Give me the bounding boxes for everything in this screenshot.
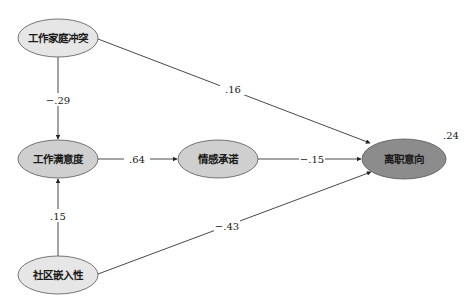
node-ce: 社区嵌入性 [18,256,98,294]
path-coefficient: .15 [50,211,66,222]
node-js: 工作满意度 [18,140,98,178]
node-label: 情感承诺 [198,153,239,165]
node-ti: 离职意向 [362,139,446,179]
path-coefficient: .16 [225,84,241,95]
r-squared-label: .24 [443,130,459,141]
path-coefficient: −.43 [215,221,239,232]
node-label: 工作满意度 [33,153,84,165]
path-diagram: 工作家庭冲突工作满意度情感承诺离职意向社区嵌入性 −.29.15.64−.15.… [0,0,464,308]
node-wfc: 工作家庭冲突 [18,19,98,57]
path-coefficient: .64 [129,154,145,165]
path-coefficient: −.29 [46,95,70,106]
node-label: 离职意向 [384,153,424,165]
nodes-layer: 工作家庭冲突工作满意度情感承诺离职意向社区嵌入性 [18,19,446,294]
node-label: 社区嵌入性 [32,269,84,281]
path-coefficient: −.15 [300,154,324,165]
node-ac: 情感承诺 [178,140,258,178]
node-label: 工作家庭冲突 [28,32,89,44]
